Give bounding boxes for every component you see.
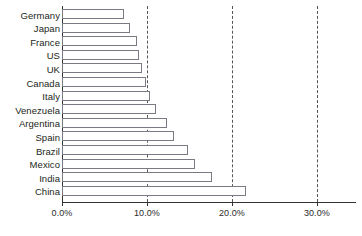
- category-label-japan: Japan: [0, 23, 60, 34]
- bar-us: [62, 50, 139, 60]
- bar-row: [62, 23, 356, 33]
- tick-mark-10.0%: [147, 202, 148, 206]
- bar-row: [62, 36, 356, 46]
- bar-italy: [62, 91, 150, 101]
- bar-row: [62, 131, 356, 141]
- x-tick-label: 30.0%: [304, 208, 330, 218]
- bar-row: [62, 63, 356, 73]
- category-label-spain: Spain: [0, 132, 60, 143]
- category-label-germany: Germany: [0, 10, 60, 21]
- bar-spain: [62, 131, 174, 141]
- bar-row: [62, 77, 356, 87]
- bar-mexico: [62, 159, 195, 169]
- x-tick-label: 0.0%: [52, 208, 73, 218]
- category-label-france: France: [0, 37, 60, 48]
- bar-chart: GermanyJapanFranceUSUKCanadaItalyVenezue…: [0, 0, 362, 236]
- bar-china: [62, 186, 246, 196]
- bar-argentina: [62, 118, 167, 128]
- x-tick-label: 20.0%: [219, 208, 245, 218]
- bar-row: [62, 50, 356, 60]
- x-axis-line: [62, 202, 356, 203]
- bar-row: [62, 118, 356, 128]
- bar-row: [62, 172, 356, 182]
- category-label-mexico: Mexico: [0, 159, 60, 170]
- bar-india: [62, 172, 212, 182]
- category-label-brazil: Brazil: [0, 146, 60, 157]
- category-label-uk: UK: [0, 64, 60, 75]
- bar-germany: [62, 9, 124, 19]
- x-tick-label: 10.0%: [134, 208, 160, 218]
- bar-japan: [62, 23, 130, 33]
- bar-uk: [62, 63, 142, 73]
- category-label-canada: Canada: [0, 78, 60, 89]
- bar-row: [62, 91, 356, 101]
- category-label-argentina: Argentina: [0, 118, 60, 129]
- bar-row: [62, 104, 356, 114]
- bar-venezuela: [62, 104, 156, 114]
- tick-mark-20.0%: [232, 202, 233, 206]
- bar-brazil: [62, 145, 188, 155]
- category-label-india: India: [0, 173, 60, 184]
- bar-france: [62, 36, 137, 46]
- bar-row: [62, 186, 356, 196]
- bar-row: [62, 159, 356, 169]
- plot-area: [62, 6, 356, 202]
- bar-row: [62, 145, 356, 155]
- category-label-us: US: [0, 50, 60, 61]
- category-label-venezuela: Venezuela: [0, 105, 60, 116]
- bar-canada: [62, 77, 146, 87]
- tick-mark-0.0%: [62, 202, 63, 206]
- bar-row: [62, 9, 356, 19]
- category-label-china: China: [0, 186, 60, 197]
- category-label-italy: Italy: [0, 91, 60, 102]
- tick-mark-30.0%: [317, 202, 318, 206]
